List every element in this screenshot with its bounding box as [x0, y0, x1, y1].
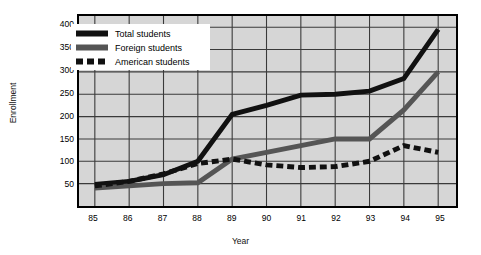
- x-tick-label: 95: [425, 214, 455, 223]
- x-tick-label: 85: [78, 214, 108, 223]
- x-tick-label: 91: [286, 214, 316, 223]
- legend-item: American students: [75, 55, 206, 68]
- y-tick-label: 200: [34, 112, 74, 121]
- x-axis-title: Year: [0, 236, 481, 246]
- x-tick-label: 93: [356, 214, 386, 223]
- x-tick-label: 89: [217, 214, 247, 223]
- x-tick-label: 86: [113, 214, 143, 223]
- y-tick-label: 50: [34, 180, 74, 189]
- legend-label: American students: [115, 57, 190, 67]
- chart-legend: Total studentsForeign studentsAmerican s…: [71, 24, 210, 70]
- y-tick-label: 350: [34, 43, 74, 52]
- x-tick-label: 88: [182, 214, 212, 223]
- y-tick-label: 250: [34, 89, 74, 98]
- x-axis-tick-labels: 8586878889909192939495: [0, 214, 481, 228]
- x-tick-label: 92: [321, 214, 351, 223]
- y-tick-label: 300: [34, 66, 74, 75]
- x-tick-label: 94: [390, 214, 420, 223]
- legend-label: Total students: [115, 29, 171, 39]
- legend-swatch-foreign-icon: [75, 41, 109, 54]
- legend-swatch-total-icon: [75, 27, 109, 40]
- enrollment-line-chart: Enrollment 50100150200250300350400 Total…: [0, 0, 481, 255]
- x-tick-label: 90: [252, 214, 282, 223]
- legend-item: Total students: [75, 27, 206, 40]
- y-tick-label: 400: [34, 20, 74, 29]
- legend-label: Foreign students: [115, 43, 182, 53]
- x-tick-label: 87: [147, 214, 177, 223]
- legend-item: Foreign students: [75, 41, 206, 54]
- legend-swatch-american-icon: [75, 55, 109, 68]
- y-tick-label: 150: [34, 135, 74, 144]
- y-tick-label: 100: [34, 157, 74, 166]
- y-axis-title: Enrollment: [8, 73, 18, 133]
